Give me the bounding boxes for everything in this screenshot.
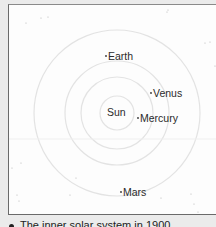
star-speck xyxy=(11,167,12,168)
mercury-label: Mercury xyxy=(140,113,178,124)
sun-label: Sun xyxy=(107,107,126,118)
star-speck xyxy=(166,11,167,12)
star-speck xyxy=(69,194,70,195)
earth-label: Earth xyxy=(108,51,133,62)
star-speck xyxy=(193,203,194,204)
star-speck xyxy=(167,9,168,10)
star-speck xyxy=(16,194,17,195)
venus-dot xyxy=(150,92,152,94)
earth-dot xyxy=(105,55,107,57)
star-speck xyxy=(209,41,210,42)
mars-dot xyxy=(120,191,122,193)
star-speck xyxy=(20,162,21,163)
figure-caption: The inner solar system in 1900 xyxy=(9,219,170,227)
venus-label: Venus xyxy=(153,88,182,99)
star-speck xyxy=(75,177,76,178)
star-speck xyxy=(204,42,205,43)
mars-label: Mars xyxy=(123,187,146,198)
bullet-icon xyxy=(9,224,14,227)
star-speck xyxy=(160,197,161,198)
caption-text: The inner solar system in 1900 xyxy=(20,219,170,227)
mercury-dot xyxy=(137,117,139,119)
star-speck xyxy=(25,22,26,23)
star-speck xyxy=(197,211,198,212)
star-speck xyxy=(47,16,48,17)
star-speck xyxy=(18,200,19,201)
star-speck xyxy=(214,65,215,66)
planet-dots xyxy=(105,55,152,193)
star-speck xyxy=(40,17,41,18)
star-speck xyxy=(190,193,191,194)
